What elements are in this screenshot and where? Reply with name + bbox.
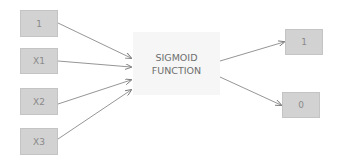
input-node-bias: 1	[20, 10, 58, 37]
arrow-function-to-output-1	[220, 42, 284, 61]
input-label: 1	[36, 19, 42, 29]
output-label: 1	[301, 37, 307, 47]
arrow-x1-to-function	[58, 61, 131, 67]
function-title-line2: FUNCTION	[152, 64, 201, 77]
arrow-function-to-output-0	[220, 77, 281, 105]
output-node-1: 1	[285, 29, 323, 55]
input-node-x2: X2	[20, 88, 58, 115]
arrow-x2-to-function	[58, 80, 131, 104]
arrow-bias-to-function	[58, 23, 131, 58]
output-node-0: 0	[282, 92, 320, 118]
sigmoid-diagram: 1 X1 X2 X3 SIGMOID FUNCTION 1 0	[0, 0, 337, 160]
input-label: X3	[33, 137, 45, 147]
input-node-x1: X1	[20, 48, 58, 74]
input-label: X2	[33, 97, 45, 107]
input-label: X1	[33, 56, 45, 66]
function-title-line1: SIGMOID	[152, 51, 201, 64]
input-node-x3: X3	[20, 128, 58, 155]
sigmoid-function-node: SIGMOID FUNCTION	[133, 32, 220, 95]
output-label: 0	[298, 100, 304, 110]
arrow-x3-to-function	[58, 90, 131, 139]
